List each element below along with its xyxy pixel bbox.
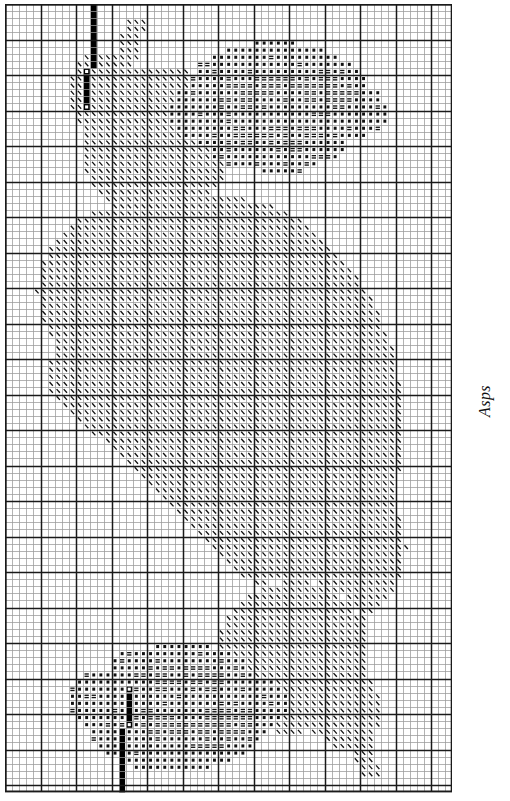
pattern-grid-canvas[interactable] bbox=[5, 4, 452, 797]
chart-caption: Asps bbox=[459, 0, 510, 801]
cross-stitch-chart-page: Asps bbox=[0, 0, 510, 801]
pattern-grid-container bbox=[5, 4, 452, 797]
chart-caption-label: Asps bbox=[475, 385, 493, 417]
